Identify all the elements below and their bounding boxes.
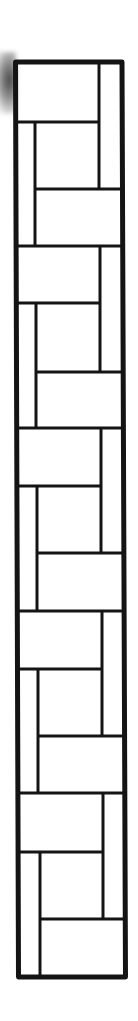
outer-frame xyxy=(16,62,126,977)
tile-pattern-drawing xyxy=(0,0,138,1021)
inner-dividers xyxy=(16,62,125,977)
